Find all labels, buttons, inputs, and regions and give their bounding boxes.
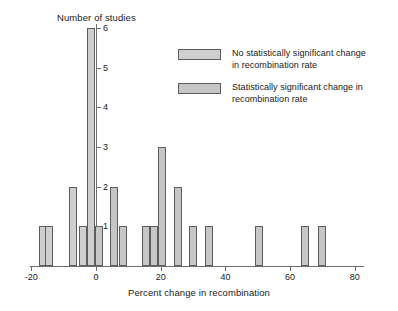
y-tick <box>97 107 101 108</box>
legend-label-line1: Statistically significant change in <box>232 82 363 92</box>
x-tick-label: 0 <box>93 272 98 282</box>
legend-item-significant: Statistically significant change in reco… <box>178 82 393 105</box>
histogram-bar <box>110 187 118 266</box>
histogram-bar <box>69 187 77 266</box>
histogram-bar <box>79 226 87 266</box>
x-tick <box>290 267 291 271</box>
x-axis-line <box>30 266 364 267</box>
x-tick-label: 20 <box>156 272 166 282</box>
y-tick-label: 3 <box>103 142 108 152</box>
histogram-bar <box>174 187 182 266</box>
y-tick <box>97 68 101 69</box>
x-tick-label: 60 <box>285 272 295 282</box>
x-tick-label: -20 <box>25 272 38 282</box>
histogram-bar <box>45 226 53 266</box>
histogram-bar <box>255 226 263 266</box>
x-tick-label: 80 <box>350 272 360 282</box>
histogram-bar <box>95 226 103 266</box>
histogram-bar <box>158 147 166 266</box>
legend-label-line2: recombination rate <box>232 94 307 104</box>
y-tick-label: 1 <box>103 221 108 231</box>
histogram-bar <box>119 226 127 266</box>
y-tick-label: 5 <box>103 63 108 73</box>
y-tick <box>97 226 101 227</box>
legend-label-line1: No statistically significant change <box>232 48 366 58</box>
histogram-bar <box>301 226 309 266</box>
chart-legend: No statistically significant change in r… <box>178 48 393 116</box>
legend-swatch-significant <box>178 83 221 94</box>
histogram-bar <box>318 226 326 266</box>
legend-item-not-significant: No statistically significant change in r… <box>178 48 393 71</box>
legend-label-line2: in recombination rate <box>232 60 317 70</box>
x-tick <box>161 267 162 271</box>
chart-figure: Number of studies -20020406080 123456 Pe… <box>0 0 398 311</box>
histogram-bar <box>87 28 95 266</box>
histogram-bar <box>150 226 158 266</box>
x-tick <box>355 267 356 271</box>
x-tick <box>96 267 97 271</box>
histogram-bar <box>142 226 150 266</box>
legend-label-significant: Statistically significant change in reco… <box>232 82 363 105</box>
legend-label-not-significant: No statistically significant change in r… <box>232 48 366 71</box>
x-tick <box>225 267 226 271</box>
y-tick-label: 2 <box>103 182 108 192</box>
y-tick-label: 4 <box>103 102 108 112</box>
histogram-bar <box>189 226 197 266</box>
legend-swatch-not-significant <box>178 49 221 60</box>
plot-area: -20020406080 123456 <box>0 0 398 311</box>
histogram-bar <box>205 226 213 266</box>
y-tick <box>97 28 101 29</box>
y-tick-label: 6 <box>103 23 108 33</box>
x-tick <box>31 267 32 271</box>
y-tick <box>97 187 101 188</box>
x-tick-label: 40 <box>220 272 230 282</box>
x-axis-title: Percent change in recombination <box>0 287 398 298</box>
y-tick <box>97 147 101 148</box>
